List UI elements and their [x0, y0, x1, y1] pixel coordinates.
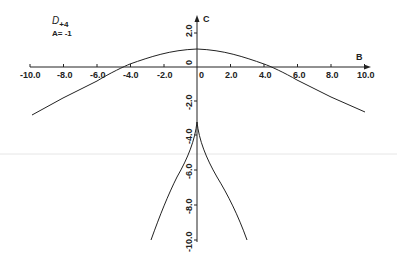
y-tick-label: 2.0 — [184, 24, 194, 37]
y-tick-label: -6.0 — [184, 163, 194, 179]
x-tick-label: 2.0 — [225, 70, 238, 80]
x-tick-label: 0 — [199, 70, 204, 80]
y-tick-label: -8.0 — [184, 198, 194, 214]
y-axis-name: C — [203, 14, 210, 24]
y-tick-label: -10.0 — [184, 231, 194, 252]
x-tick-label: 8.0 — [326, 70, 339, 80]
upper-arc-curve — [32, 49, 365, 115]
chart-subtitle: A= -1 — [52, 29, 72, 38]
x-tick-label: 4.0 — [259, 70, 272, 80]
cusp-right-branch-curve — [197, 122, 247, 240]
y-tick-label: 0 — [184, 60, 194, 65]
y-tick-label: -2.0 — [184, 94, 194, 110]
x-tick-label: -2.0 — [157, 70, 173, 80]
x-tick-label: -4.0 — [123, 70, 139, 80]
x-tick-label: -8.0 — [57, 70, 73, 80]
x-tick-label: -6.0 — [90, 70, 106, 80]
x-axis-name: B — [356, 52, 363, 62]
chart-canvas: D+4 A= -1 -10.0 -8.0 -6.0 -4.0 -2.0 0 2.… — [0, 0, 397, 260]
y-axis-arrow-icon — [195, 15, 200, 22]
x-tick-label: -10.0 — [20, 70, 41, 80]
x-axis-arrow-icon — [364, 65, 371, 70]
chart-title: D+4 — [52, 15, 69, 29]
x-tick-label: 10.0 — [357, 70, 375, 80]
